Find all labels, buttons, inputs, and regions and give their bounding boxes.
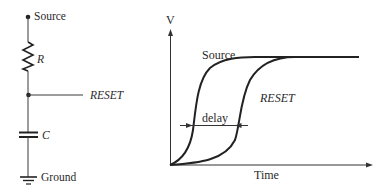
circuit-schematic — [19, 15, 83, 184]
resistor-icon — [23, 42, 33, 71]
y-axis-arrow-icon — [168, 29, 173, 36]
source-label: Source — [34, 10, 66, 22]
delay-label: delay — [202, 111, 228, 125]
source-curve-label: Source — [202, 48, 235, 62]
ground-icon — [20, 177, 37, 184]
ground-label: Ground — [41, 171, 76, 183]
source-curve — [170, 57, 359, 165]
rc-reset-diagram: Source R RESET C Ground V Time Source RE… — [0, 0, 385, 194]
x-axis-label: Time — [254, 168, 279, 182]
reset-curve — [170, 57, 295, 165]
capacitor-label: C — [42, 129, 50, 141]
reset-curve-label: RESET — [259, 91, 296, 105]
reset-label: RESET — [89, 89, 125, 101]
y-axis-label: V — [166, 13, 175, 27]
capacitor-icon — [19, 133, 38, 138]
resistor-label: R — [36, 53, 44, 65]
x-axis-arrow-icon — [366, 163, 373, 168]
delay-arrow-left-icon — [186, 123, 193, 128]
